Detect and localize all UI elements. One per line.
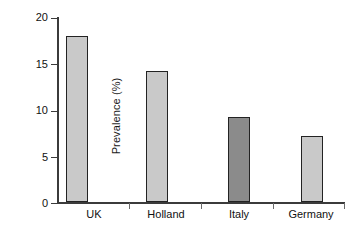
x-tick-label-italy: Italy: [229, 208, 249, 220]
y-tick-label-15: 15: [22, 59, 48, 70]
x-tick-label-uk: UK: [86, 208, 101, 220]
y-tick-mark-20: [51, 18, 57, 19]
y-tick-label-20: 20: [22, 12, 48, 23]
x-tick-mark-3: [273, 203, 274, 209]
x-tick-mark-1: [129, 203, 130, 209]
y-tick-mark-10: [51, 111, 57, 112]
bar-chart: Prevalence (%) 20 15 10 5 0 UK Holland I…: [0, 0, 351, 232]
bar-germany: [301, 136, 323, 203]
x-tick-label-holland: Holland: [147, 208, 184, 220]
bar-uk: [66, 36, 88, 202]
x-tick-mark-2: [201, 203, 202, 209]
x-tick-label-germany: Germany: [288, 208, 333, 220]
y-tick-label-10: 10: [22, 105, 48, 116]
x-tick-mark-4: [344, 203, 345, 209]
bar-holland: [146, 71, 168, 202]
y-tick-mark-5: [51, 157, 57, 158]
y-tick-mark-0: [51, 203, 57, 204]
y-axis-line: [57, 17, 59, 204]
y-tick-label-0: 0: [22, 198, 48, 209]
y-tick-mark-15: [51, 64, 57, 65]
bar-italy: [228, 117, 250, 202]
y-axis-title: Prevalence (%): [105, 0, 127, 232]
y-tick-label-5: 5: [22, 152, 48, 163]
